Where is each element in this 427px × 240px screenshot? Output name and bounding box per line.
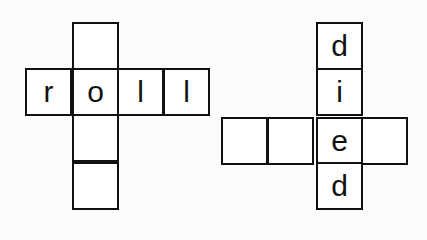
empty-cell[interactable]: [72, 22, 119, 70]
letter-cell: l: [163, 68, 210, 116]
empty-cell[interactable]: [221, 117, 268, 165]
letter-cell: i: [316, 68, 363, 116]
empty-cell[interactable]: [361, 117, 408, 165]
letter-cell: d: [316, 162, 363, 210]
empty-cell[interactable]: [267, 117, 314, 165]
letter-cell: o: [72, 68, 119, 116]
letter-cell: d: [316, 22, 363, 70]
empty-cell[interactable]: [72, 114, 119, 162]
letter-cell: e: [316, 117, 363, 165]
letter-cell: l: [117, 68, 164, 116]
letter-cell: r: [25, 68, 72, 116]
empty-cell[interactable]: [72, 162, 119, 210]
